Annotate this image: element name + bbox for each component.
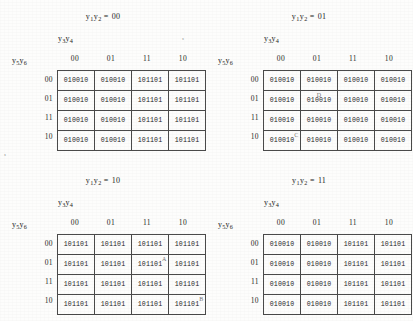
column-group-label-y3y4: y3y4 [264,198,279,207]
kmap-cell: 010010 [375,131,412,151]
title-equals-sign: = [104,176,110,185]
kmap-title-map-00: y1y2 = 00 [0,12,206,21]
column-header: 10 [165,218,201,227]
table-row: 101101101101101101A101101 [58,255,206,275]
kmap-cell: 010010 [58,111,95,131]
title-equals-sign: = [310,12,316,21]
row-headers: 00011110 [33,70,53,146]
table-row: 010010010010101101101101 [264,235,412,255]
row-header: 10 [239,291,259,310]
kmap-cell-value: 010010 [307,97,332,104]
kmap-cell-value: 010010 [270,97,295,104]
column-group-label-y3y4: y3y4 [58,34,73,43]
kmap-cell-value: 101101 [138,97,163,104]
column-header: 01 [299,218,335,227]
row-group-label-y5y6: y5y6 [218,220,233,229]
kmap-table-map-11: 0100100100101011011011010100100100101011… [263,234,412,315]
table-row: 101101101101101101101101 [58,275,206,295]
column-header: 11 [129,218,165,227]
kmap-cell: 010010C [264,131,301,151]
kmap-cell-value: 101101 [344,241,369,248]
kmap-cell-value: 101101 [138,241,163,248]
kmap-cell: 101101 [95,275,132,295]
column-group-label-y3y4: y3y4 [264,34,279,43]
kmap-cell-value: 010010 [101,137,126,144]
kmap-cell-value: 010010 [270,117,295,124]
kmap-cell: 101101 [132,275,169,295]
row-header: 01 [33,253,53,272]
kmap-table-map-00: 0100100100101011011011010100100100101011… [57,70,206,151]
table-row: 010010010010101101101101 [264,275,412,295]
column-header: 00 [57,54,93,63]
kmap-cell-value: 010010 [307,261,332,268]
kmap-cell: 101101 [132,295,169,315]
table-row: 101101101101101101101101B [58,295,206,315]
row-group-label-y5y6: y5y6 [12,56,27,65]
kmap-cell-value: 010010 [270,281,295,288]
kmap-cell-value: 010010 [270,301,295,308]
annotation-letter-a: A [162,256,166,262]
row-header: 11 [239,272,259,291]
kmap-cell-value: 101101 [101,281,126,288]
kmap-cell: 101101 [338,255,375,275]
kmap-cell-value: 010010 [64,97,89,104]
kmap-cell: 101101 [169,111,206,131]
kmap-cell-value: 010010 [307,137,332,144]
column-header: 10 [165,54,201,63]
kmap-cell-value: 010010 [381,117,406,124]
kmap-cell: 101101 [132,235,169,255]
kmap-cell: 101101 [169,255,206,275]
kmap-cell-value: 010010 [344,137,369,144]
row-headers: 00011110 [239,234,259,310]
kmap-cell-value: 101101 [381,301,406,308]
kmap-cell-value: 010010 [307,117,332,124]
kmap-cell-value: 010010 [307,281,332,288]
table-row: 010010C010010010010010010 [264,131,412,151]
table-row: 010010010010101101101101 [264,295,412,315]
row-header: 01 [239,253,259,272]
row-headers: 00011110 [239,70,259,146]
kmap-cell: 101101 [169,91,206,111]
table-row: 010010010010101101101101 [58,111,206,131]
title-value: 11 [318,176,326,185]
kmap-cell: 101101 [169,235,206,255]
kmap-cell: 010010 [301,71,338,91]
kmap-cell-value: 010010 [64,77,89,84]
table-row: 010010010010010010010010 [264,111,412,131]
kmap-cell-value: 101101 [175,281,200,288]
kmap-cell: 101101 [95,235,132,255]
kmap-cell-value: 101101 [381,261,406,268]
title-value: 10 [112,176,120,185]
kmap-cell-value: 010010 [307,77,332,84]
title-equals-sign: = [104,12,110,21]
kmap-cell: 010010 [301,131,338,151]
kmap-cell: 101101 [169,275,206,295]
kmap-cell-value: 010010 [307,241,332,248]
kmap-cell-value: 010010 [344,97,369,104]
kmap-cell: 010010 [375,91,412,111]
kmap-cell-value: 101101 [138,301,163,308]
title-value: 00 [112,12,120,21]
kmap-cell-value: 010010 [344,117,369,124]
kmap-cell-value: 010010 [381,97,406,104]
table-row: 010010010010101101101101 [264,255,412,275]
kmap-cell: 010010 [264,235,301,255]
kmap-cell: 101101 [58,255,95,275]
row-header: 01 [239,89,259,108]
row-header: 10 [33,127,53,146]
kmap-cell: 101101 [338,275,375,295]
kmap-cell-value: 101101 [344,281,369,288]
table-row: 010010010010101101101101 [58,91,206,111]
kmap-block-map-01: y1y2 = 01y3y4y5y600011110000111100100100… [206,4,412,164]
annotation-letter-b: B [199,296,203,302]
column-headers: 00011110 [263,54,407,63]
kmap-block-map-11: y1y2 = 11y3y4y5y600011110000111100100100… [206,168,412,321]
kmap-cell-value: 010010 [64,117,89,124]
kmap-cell-value: 101101 [175,241,200,248]
title-equals-sign: = [310,176,316,185]
kmap-cell: 101101 [132,111,169,131]
kmap-cell-value: 010010 [344,77,369,84]
kmap-block-map-00: y1y2 = 00y3y4y5y600011110000111100100100… [0,4,206,164]
row-group-label-y5y6: y5y6 [218,56,233,65]
kmap-cell: 101101 [375,255,412,275]
